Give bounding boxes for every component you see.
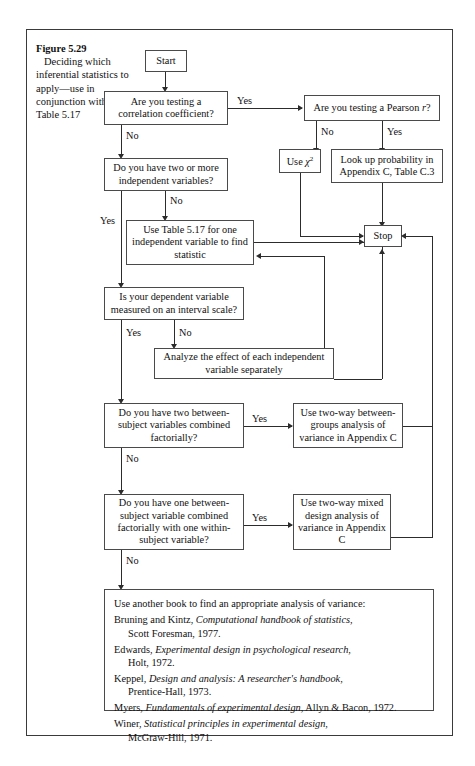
edge-label-no-one-between: No xyxy=(126,555,139,566)
reference-author: Winer, xyxy=(114,718,141,729)
edge-mixed-to-trunk xyxy=(391,537,432,538)
edge-table517-to-stop xyxy=(254,242,364,243)
arrowhead-left xyxy=(256,253,261,259)
reference-publisher: Prentice-Hall, 1973. xyxy=(142,685,211,698)
edge-analyze-right-trunk xyxy=(382,247,383,379)
edge-label-yes-two-iv: Yes xyxy=(100,215,115,226)
node-two-way-between-groups[interactable]: Use two-way between-groups analysis of v… xyxy=(293,403,403,448)
node-two-way-mixed-design[interactable]: Use two-way mixed design analysis of var… xyxy=(293,494,391,550)
reference-author: Keppel, xyxy=(114,673,146,684)
edge-one-between-yes xyxy=(244,525,292,526)
edge-two-iv-no xyxy=(165,191,166,219)
node-q-two-between[interactable]: Do you have two between-subject variable… xyxy=(104,403,244,448)
reference-publisher: Allyn & Bacon, 1972. xyxy=(305,702,396,713)
edge-label-no-correlation: No xyxy=(126,130,139,141)
edge-label-yes-correlation: Yes xyxy=(237,95,252,106)
edge-one-between-no xyxy=(121,550,122,588)
references-box: Use another book to find an appropriate … xyxy=(104,589,434,711)
reference-item: Edwards, Experimental design in psycholo… xyxy=(114,643,424,670)
reference-publisher: Scott Foresman, 1977. xyxy=(142,627,221,640)
node-analyze-separately[interactable]: Analyze the effect of each independent v… xyxy=(154,348,334,379)
edge-label-yes-interval: Yes xyxy=(126,327,141,338)
node-use-chi-square[interactable]: Use χ2 xyxy=(279,149,321,173)
flowchart: Start Are you testing a correlation coef… xyxy=(26,29,451,734)
edge-label-no-pearson: No xyxy=(321,126,334,137)
edge-interval-no xyxy=(174,320,175,347)
edge-label-no-two-iv: No xyxy=(170,195,183,206)
reference-title: Experimental design in psychological res… xyxy=(155,644,351,655)
node-q-one-between[interactable]: Do you have one between-subject variable… xyxy=(104,494,244,550)
edge-analyze-to-right-trunk xyxy=(334,379,382,380)
reference-publisher: McGraw-Hill, 1971. xyxy=(142,731,212,744)
arrowhead-up xyxy=(379,249,385,254)
edge-chi-to-stop-v xyxy=(300,173,301,237)
figure-page: Figure 5.29 Deciding which inferential s… xyxy=(0,0,475,766)
reference-title: Design and analysis: A researcher's hand… xyxy=(149,673,343,684)
reference-title: Statistical principles in experimental d… xyxy=(144,718,328,729)
reference-publisher: Holt, 1972. xyxy=(142,656,175,669)
reference-title: Fundamentals of experimental design, xyxy=(145,702,303,713)
edge-between-groups-to-trunk xyxy=(403,426,432,427)
edge-label-yes-one-between: Yes xyxy=(252,512,267,523)
edge-analyze-to-table-v xyxy=(324,256,325,348)
reference-title: Computational handbook of statistics, xyxy=(196,614,353,625)
reference-item: Bruning and Kintz, Computational handboo… xyxy=(114,613,424,640)
reference-item: Keppel, Design and analysis: A researche… xyxy=(114,672,424,699)
node-q-pearson-label: Are you testing a Pearson r? xyxy=(314,102,431,114)
edge-correlation-no xyxy=(121,125,122,157)
edge-label-no-two-between: No xyxy=(126,453,139,464)
edge-label-yes-two-between: Yes xyxy=(252,413,267,424)
edge-label-yes-pearson: Yes xyxy=(387,126,402,137)
node-q-correlation[interactable]: Are you testing a correlation coefficien… xyxy=(104,91,228,125)
edge-two-between-yes xyxy=(244,426,292,427)
node-q-pearson[interactable]: Are you testing a Pearson r? xyxy=(304,95,440,121)
reference-author: Edwards, xyxy=(114,644,153,655)
reference-author: Bruning and Kintz, xyxy=(114,614,193,625)
edge-pearson-no xyxy=(316,121,317,151)
edge-analyze-to-table-h xyxy=(259,256,324,257)
edge-two-between-no xyxy=(121,448,122,493)
node-q-interval[interactable]: Is your dependent variable measured on a… xyxy=(104,287,244,320)
edge-correlation-yes xyxy=(228,108,302,109)
arrowhead-right xyxy=(298,105,303,111)
edge-lookup-to-stop xyxy=(382,183,383,225)
references-lead: Use another book to find an appropriate … xyxy=(114,597,424,610)
edge-chi-to-stop-h xyxy=(300,236,363,237)
node-q-two-iv[interactable]: Do you have two or more independent vari… xyxy=(104,158,228,191)
edge-label-no-interval: No xyxy=(179,327,192,338)
edge-trunk-into-stop xyxy=(406,236,432,237)
edge-interval-yes xyxy=(121,320,122,402)
reference-item: Myers, Fundamentals of experimental desi… xyxy=(114,701,424,714)
edge-two-iv-yes xyxy=(121,191,122,286)
edge-pearson-yes xyxy=(382,121,383,151)
node-start[interactable]: Start xyxy=(145,50,187,72)
node-use-chi-square-label: Use χ2 xyxy=(287,153,314,169)
node-stop[interactable]: Stop xyxy=(364,225,402,247)
reference-item: Winer, Statistical principles in experim… xyxy=(114,717,424,744)
edge-right-trunk xyxy=(432,236,433,538)
arrowhead-left xyxy=(401,233,406,239)
node-lookup-probability[interactable]: Look up probability in Appendix C, Table… xyxy=(331,149,443,183)
reference-author: Myers, xyxy=(114,702,143,713)
node-use-table-517[interactable]: Use Table 5.17 for one independent varia… xyxy=(126,220,254,265)
